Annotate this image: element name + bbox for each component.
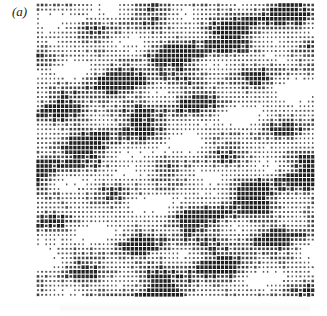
print-bleed [60, 302, 310, 314]
dot-pattern-field [0, 0, 327, 316]
